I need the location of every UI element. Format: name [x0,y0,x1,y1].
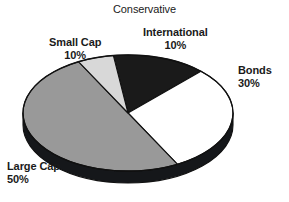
slice-label-international-name: International [143,26,208,38]
slice-label-large-cap: Large Cap 50% [7,160,60,187]
slice-label-small-cap-value: 10% [49,49,101,62]
slice-label-bonds: Bonds 30% [238,64,272,91]
slice-label-small-cap-name: Small Cap [49,36,101,48]
slice-label-bonds-value: 30% [238,77,272,90]
pie-top-group [23,55,233,171]
slice-label-large-cap-value: 50% [7,173,60,186]
slice-label-large-cap-name: Large Cap [7,160,60,172]
slice-label-international: International 10% [143,26,208,53]
pie-chart-figure: Conservative International 10% Small Cap… [0,0,289,202]
slice-label-international-value: 10% [143,39,208,52]
slice-label-small-cap: Small Cap 10% [49,36,101,63]
slice-label-bonds-name: Bonds [238,64,272,76]
